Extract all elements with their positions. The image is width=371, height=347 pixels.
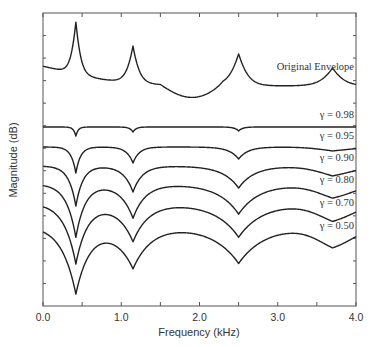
x-axis-label: Frequency (kHz) — [158, 326, 239, 338]
curve-1 — [43, 127, 356, 136]
curve-label: γ = 0.90 — [319, 152, 354, 163]
x-tick-labels: 0.01.02.03.04.0 — [36, 311, 364, 323]
curve-label: Original Envelope — [277, 61, 355, 72]
curve-label: γ = 0.50 — [319, 220, 354, 231]
y-axis-label: Magnitude (dB) — [7, 122, 19, 197]
curve-label: γ = 0.70 — [319, 197, 354, 208]
curve-label: γ = 0.98 — [319, 109, 354, 120]
axis-ticks — [43, 13, 356, 306]
curve-labels: Original Envelopeγ = 0.98γ = 0.95γ = 0.9… — [277, 61, 355, 231]
x-tick-label: 3.0 — [270, 311, 285, 323]
x-tick-label: 2.0 — [192, 311, 207, 323]
curve-6 — [43, 232, 356, 294]
curve-3 — [43, 166, 356, 206]
magnitude-response-chart: 0.01.02.03.04.0 Original Envelopeγ = 0.9… — [0, 0, 371, 347]
curve-label: γ = 0.80 — [319, 174, 354, 185]
curve-0 — [43, 22, 356, 97]
x-tick-label: 1.0 — [114, 311, 129, 323]
x-tick-label: 0.0 — [36, 311, 51, 323]
x-tick-label: 4.0 — [349, 311, 364, 323]
curve-label: γ = 0.95 — [319, 130, 354, 141]
plot-frame — [43, 13, 356, 306]
